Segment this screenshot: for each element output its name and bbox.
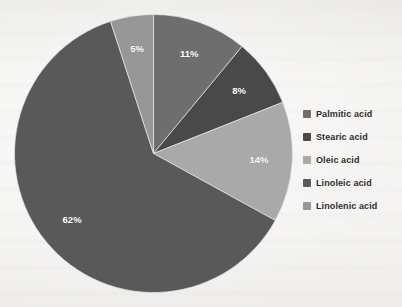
legend-item[interactable]: Oleic acid [303, 148, 402, 171]
legend-item[interactable]: Linoleic acid [303, 171, 402, 194]
legend-item[interactable]: Linolenic acid [303, 194, 402, 217]
legend-color-swatch-icon [303, 202, 311, 210]
chart-legend: Palmitic acidStearic acidOleic acidLinol… [303, 102, 402, 217]
legend-item[interactable]: Palmitic acid [303, 102, 402, 125]
legend-color-swatch-icon [303, 156, 311, 164]
pie-slice-data-label: 14% [249, 154, 269, 165]
legend-item-label: Linolenic acid [316, 201, 377, 211]
legend-color-swatch-icon [303, 110, 311, 118]
legend-item-label: Palmitic acid [316, 109, 372, 119]
pie-slice-data-label: 8% [232, 85, 246, 96]
legend-item[interactable]: Stearic acid [303, 125, 402, 148]
pie-chart-figure: 11%8%14%62%5% Palmitic acidStearic acidO… [0, 0, 402, 307]
pie-slice-data-label: 11% [180, 48, 199, 59]
pie-slice-data-label: 62% [63, 214, 83, 225]
legend-item-label: Stearic acid [316, 132, 368, 142]
pie-svg: 11%8%14%62%5% [14, 14, 293, 293]
pie-plot-area: 11%8%14%62%5% [14, 14, 293, 293]
legend-item-label: Linoleic acid [316, 178, 372, 188]
legend-color-swatch-icon [303, 133, 311, 141]
legend-color-swatch-icon [303, 179, 311, 187]
legend-item-label: Oleic acid [316, 155, 360, 165]
pie-slice-data-label: 5% [130, 43, 144, 54]
